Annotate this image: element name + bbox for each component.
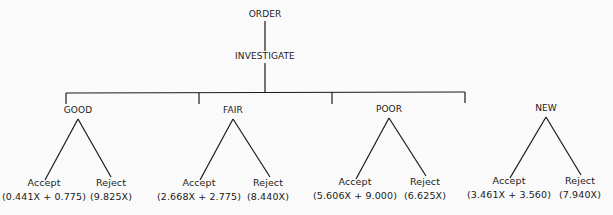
poor-accept-formula: (5.606X + 9.000) [313, 190, 397, 201]
new-accept-label: Accept [493, 175, 526, 186]
new-reject-formula: (7.940X) [559, 189, 601, 200]
node-order: ORDER [249, 9, 282, 20]
good-accept-formula: (0.441X + 0.775) [2, 191, 86, 202]
edge-poor-accept [356, 118, 389, 179]
branch-bar [66, 92, 465, 93]
poor-reject-label: Reject [410, 176, 440, 187]
edge-fair-reject [233, 119, 270, 177]
edge-good-reject [78, 119, 111, 177]
new-reject-label: Reject [565, 175, 595, 186]
edge-fair-accept [200, 119, 233, 180]
node-fair: FAIR [223, 105, 243, 116]
fair-accept-label: Accept [183, 177, 216, 188]
node-good: GOOD [64, 105, 92, 116]
poor-reject-formula: (6.625X) [404, 190, 446, 201]
fair-reject-formula: (8.440X) [247, 191, 289, 202]
node-poor: POOR [376, 104, 402, 115]
good-accept-label: Accept [28, 177, 61, 188]
edge-new-accept [510, 117, 546, 178]
node-investigate: INVESTIGATE [235, 51, 295, 62]
fair-reject-label: Reject [253, 177, 283, 188]
new-accept-formula: (3.461X + 3.560) [467, 189, 551, 200]
good-reject-label: Reject [96, 177, 126, 188]
good-reject-formula: (9.825X) [90, 191, 132, 202]
fair-accept-formula: (2.668X + 2.775) [157, 191, 241, 202]
node-new: NEW [535, 103, 557, 114]
poor-accept-label: Accept [339, 176, 372, 187]
edge-good-accept [45, 119, 78, 180]
edge-new-reject [546, 117, 581, 175]
edge-poor-reject [389, 118, 426, 176]
